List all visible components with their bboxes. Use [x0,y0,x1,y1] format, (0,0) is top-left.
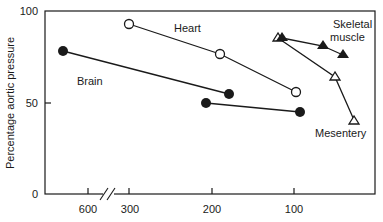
y-tick-label-0: 0 [32,188,38,200]
label-mesentery: Mesentery [315,127,367,139]
y-tick-label-100: 100 [20,5,38,17]
series-brain [58,46,234,99]
label-skeletal-muscle-2: muscle [330,31,365,43]
x-tick-label-100: 100 [285,203,303,215]
y-axis-title: Percentage aortic pressure [4,37,16,169]
label-brain: Brain [77,75,103,87]
x-tick-label-200: 200 [203,203,221,215]
y-tick-label-50: 50 [26,97,38,109]
chart: 100 50 0 Percentage aortic pressure 600 … [0,0,383,222]
label-heart: Heart [174,22,201,34]
x-tick-label-300: 300 [121,203,139,215]
series-brain-second [201,98,305,117]
series-heart [125,20,301,97]
label-skeletal-muscle-1: Skeletal [333,18,372,30]
x-tick-label-600: 600 [79,203,97,215]
